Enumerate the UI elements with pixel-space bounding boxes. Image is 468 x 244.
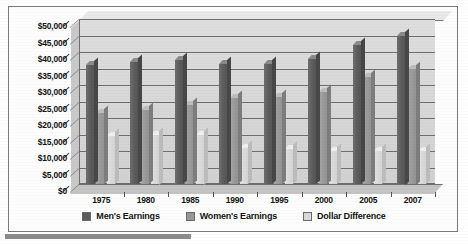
legend-swatch-icon — [82, 212, 91, 221]
x-tick-label-1975: 1975 — [83, 195, 119, 205]
legend-item-women-s-earnings[interactable]: Women's Earnings — [186, 211, 277, 221]
x-tick-mark — [302, 192, 303, 197]
bar-side-face — [183, 53, 187, 184]
bar-face — [353, 45, 361, 184]
chart-legend: Men's EarningsWomen's EarningsDollar Dif… — [9, 207, 459, 225]
chart-frame: $50,000$45,000$40,000$35,000$30,000$25,0… — [8, 6, 458, 232]
legend-label: Men's Earnings — [96, 211, 159, 221]
bar-side-face — [94, 58, 98, 184]
bar-side-face — [204, 127, 208, 184]
bar-side-face — [327, 84, 331, 184]
bar-men-s-earnings-1975 — [86, 65, 94, 184]
x-tick-mark — [391, 192, 392, 197]
gridline — [79, 36, 435, 37]
earnings-bar-chart: $50,000$45,000$40,000$35,000$30,000$25,0… — [9, 7, 459, 233]
bar-side-face — [272, 56, 276, 184]
y-tick-label: $25,000 — [9, 104, 67, 114]
bar-side-face — [115, 129, 119, 184]
legend-label: Women's Earnings — [200, 211, 277, 221]
y-tick-label: $0 — [9, 186, 67, 196]
bar-side-face — [371, 69, 375, 184]
x-tick-label-1980: 1980 — [128, 195, 164, 205]
bar-side-face — [382, 143, 386, 184]
x-tick-label-1990: 1990 — [217, 195, 253, 205]
bar-side-face — [104, 105, 108, 184]
x-tick-mark — [435, 192, 436, 197]
x-tick-label-2000: 2000 — [306, 195, 342, 205]
bar-side-face — [361, 38, 365, 184]
y-tick-label: $45,000 — [9, 38, 67, 48]
bar-men-s-earnings-1995 — [264, 64, 272, 184]
y-tick-label: $35,000 — [9, 71, 67, 81]
bar-face — [264, 64, 272, 184]
legend-swatch-icon — [186, 212, 195, 221]
bar-men-s-earnings-2000 — [308, 59, 316, 184]
bar-side-face — [316, 51, 320, 184]
x-tick-label-1995: 1995 — [261, 195, 297, 205]
bar-side-face — [138, 54, 142, 184]
y-tick-label: $5,000 — [9, 170, 67, 180]
y-tick-label: $30,000 — [9, 87, 67, 97]
y-tick-label: $15,000 — [9, 137, 67, 147]
bar-men-s-earnings-1980 — [130, 62, 138, 184]
y-tick-label: $40,000 — [9, 54, 67, 64]
bar-men-s-earnings-2007 — [397, 36, 405, 185]
x-tick-label-2005: 2005 — [350, 195, 386, 205]
x-tick-label-1985: 1985 — [172, 195, 208, 205]
y-tick-label: $50,000 — [9, 21, 67, 31]
bar-side-face — [405, 28, 409, 184]
bar-side-face — [227, 56, 231, 184]
x-tick-mark — [213, 192, 214, 197]
legend-item-dollar-difference[interactable]: Dollar Difference — [303, 211, 386, 221]
gridline — [79, 19, 435, 20]
gridline — [79, 52, 435, 53]
bar-men-s-earnings-1990 — [219, 64, 227, 184]
bar-side-face — [238, 91, 242, 184]
x-tick-mark — [168, 192, 169, 197]
bar-side-face — [248, 140, 252, 184]
bar-side-face — [282, 89, 286, 184]
bar-side-face — [149, 102, 153, 184]
bar-side-face — [426, 143, 430, 184]
bar-side-face — [293, 142, 297, 184]
bar-face — [175, 60, 183, 184]
bar-men-s-earnings-1985 — [175, 60, 183, 184]
bar-side-face — [159, 127, 163, 184]
legend-item-men-s-earnings[interactable]: Men's Earnings — [82, 211, 159, 221]
legend-label: Dollar Difference — [317, 211, 386, 221]
legend-swatch-icon — [303, 212, 312, 221]
bar-face — [86, 65, 94, 184]
x-tick-label-2007: 2007 — [395, 195, 431, 205]
bar-men-s-earnings-2005 — [353, 45, 361, 184]
bar-side-face — [416, 61, 420, 184]
x-tick-mark — [346, 192, 347, 197]
x-tick-mark — [257, 192, 258, 197]
page-shadow-strip — [5, 234, 191, 239]
plot-area: $50,000$45,000$40,000$35,000$30,000$25,0… — [9, 7, 459, 233]
bar-side-face — [193, 97, 197, 184]
y-tick-label: $20,000 — [9, 120, 67, 130]
bar-side-face — [337, 143, 341, 184]
x-tick-mark — [124, 192, 125, 197]
y-tick-label: $10,000 — [9, 153, 67, 163]
